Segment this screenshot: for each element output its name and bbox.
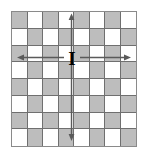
board-square[interactable] [90,96,106,113]
board-square[interactable] [43,62,59,79]
board-square[interactable] [28,96,44,113]
board-square[interactable] [90,12,106,29]
board-square[interactable] [12,29,28,46]
board-square[interactable] [90,129,106,146]
board-square[interactable] [43,129,59,146]
board-square[interactable] [59,113,75,130]
board-square[interactable] [105,62,121,79]
board-square[interactable] [90,62,106,79]
board-square[interactable] [74,79,90,96]
board-square[interactable] [74,113,90,130]
board-square[interactable] [43,12,59,29]
board-square[interactable] [28,129,44,146]
board-square[interactable] [12,129,28,146]
board-square[interactable] [121,129,137,146]
piece-marker: I [64,48,80,68]
board-square[interactable] [74,96,90,113]
board-square[interactable] [28,62,44,79]
board-square[interactable] [121,96,137,113]
board-square[interactable] [28,113,44,130]
board-square[interactable] [90,79,106,96]
board-square[interactable] [59,12,75,29]
board-square[interactable] [121,46,137,63]
chessboard-move-diagram: I [0,0,148,158]
board-square[interactable] [59,129,75,146]
board-square[interactable] [105,96,121,113]
board-square[interactable] [12,113,28,130]
board-square[interactable] [105,29,121,46]
board-square[interactable] [12,12,28,29]
board-square[interactable] [43,79,59,96]
board-square[interactable] [105,129,121,146]
board-square[interactable] [12,79,28,96]
board-square[interactable] [43,46,59,63]
board-square[interactable] [90,29,106,46]
board-square[interactable] [105,12,121,29]
board-square[interactable] [105,79,121,96]
board-square[interactable] [43,96,59,113]
board-square[interactable] [121,113,137,130]
board-square[interactable] [28,79,44,96]
board-square[interactable] [105,46,121,63]
board-square[interactable] [74,29,90,46]
board-square[interactable] [12,46,28,63]
board-square[interactable] [121,12,137,29]
board-square[interactable] [121,79,137,96]
board-square[interactable] [74,12,90,29]
board-square[interactable] [121,29,137,46]
board-square[interactable] [59,79,75,96]
chessboard-grid [11,11,137,147]
board-square[interactable] [43,29,59,46]
board-square[interactable] [28,12,44,29]
board-square[interactable] [74,129,90,146]
board-square[interactable] [28,46,44,63]
board-square[interactable] [12,62,28,79]
board-square[interactable] [105,113,121,130]
board-square[interactable] [121,62,137,79]
board-square[interactable] [28,29,44,46]
board-square[interactable] [59,96,75,113]
board-square[interactable] [43,113,59,130]
board-square[interactable] [12,96,28,113]
board-square[interactable] [90,113,106,130]
board-square[interactable] [59,29,75,46]
board-square[interactable] [90,46,106,63]
